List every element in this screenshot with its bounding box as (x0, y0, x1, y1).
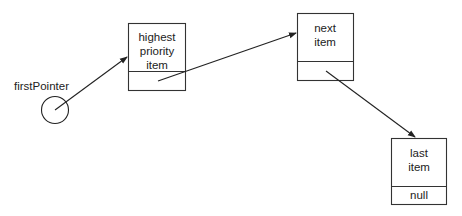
arrow-highest-to-next (158, 33, 296, 81)
node-text-line: item (408, 161, 430, 173)
node-text-line: item (146, 59, 168, 71)
node-text-line: highest (138, 31, 176, 43)
node-next-item: next item (298, 14, 354, 81)
node-last-item: last item null (392, 139, 447, 205)
node-highest-priority-item: highest priority item (129, 24, 186, 91)
first-pointer-label: firstPointer (14, 80, 69, 92)
arrow-next-to-last (326, 71, 415, 137)
linked-list-diagram: firstPointer highest priority item next … (0, 0, 462, 216)
node-text-line: last (410, 147, 429, 159)
node-text-line: priority (140, 45, 175, 57)
node-pointer-field: null (410, 189, 428, 201)
node-text-line: next (314, 22, 337, 34)
first-pointer: firstPointer (14, 80, 69, 124)
node-text-line: item (314, 36, 336, 48)
